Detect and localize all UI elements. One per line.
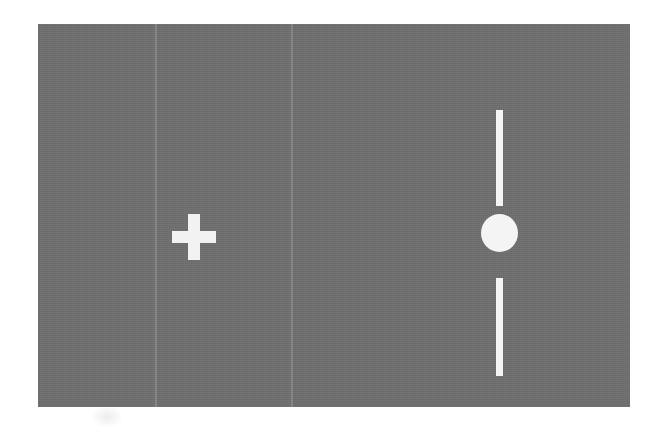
figure-canvas: fixation cross vertical line with occlud… bbox=[0, 0, 655, 429]
scan-seam-1 bbox=[155, 24, 157, 407]
page-smudge-artifact bbox=[92, 408, 122, 427]
fixation-cross-icon: fixation cross bbox=[172, 214, 216, 260]
fixation-cross-label: fixation cross bbox=[171, 213, 172, 214]
line-segment-lower bbox=[496, 278, 503, 376]
line-disc-label: vertical line with occluding disc bbox=[480, 109, 481, 110]
stimulus-field-panel: fixation cross vertical line with occlud… bbox=[38, 24, 630, 407]
line-segment-upper bbox=[496, 110, 503, 206]
fixation-cross-vertical-bar bbox=[188, 214, 200, 260]
panel-grain-texture bbox=[38, 24, 630, 407]
target-disc bbox=[481, 214, 518, 252]
scan-seam-2 bbox=[291, 24, 293, 407]
line-disc-stimulus: vertical line with occluding disc bbox=[481, 110, 517, 376]
